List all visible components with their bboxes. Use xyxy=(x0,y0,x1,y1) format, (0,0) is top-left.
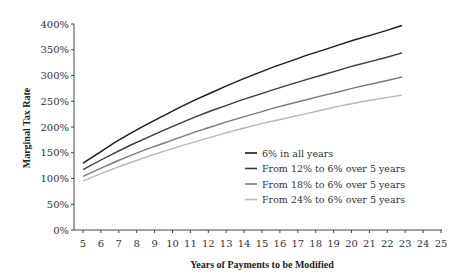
series-line-0 xyxy=(83,26,402,164)
x-tick-label: 10 xyxy=(166,238,179,249)
x-tick-label: 11 xyxy=(184,238,197,249)
x-tick-label: 14 xyxy=(238,238,251,249)
y-tick-label: 300% xyxy=(40,70,69,81)
x-tick-label: 18 xyxy=(309,238,322,249)
series-lines xyxy=(83,26,402,182)
x-tick-label: 22 xyxy=(381,238,394,249)
y-tick-label: 400% xyxy=(40,19,69,30)
x-tick-label: 5 xyxy=(80,238,86,249)
x-tick-label: 21 xyxy=(363,238,376,249)
y-tick-label: 150% xyxy=(40,147,69,158)
x-tick-label: 8 xyxy=(134,238,140,249)
y-tick-label: 100% xyxy=(40,173,69,184)
x-tick-label: 9 xyxy=(151,238,157,249)
x-tick-label: 25 xyxy=(435,238,448,249)
y-tick-label: 350% xyxy=(40,44,69,55)
legend-label: From 18% to 6% over 5 years xyxy=(262,179,405,190)
legend: 6% in all yearsFrom 12% to 6% over 5 yea… xyxy=(245,148,405,206)
y-tick-label: 250% xyxy=(40,96,69,107)
x-tick-label: 15 xyxy=(256,238,269,249)
x-tick-label: 17 xyxy=(291,238,304,249)
x-tick-label: 23 xyxy=(399,238,412,249)
x-tick-label: 6 xyxy=(98,238,104,249)
y-tick-label: 50% xyxy=(47,199,69,210)
x-tick-label: 19 xyxy=(327,238,340,249)
legend-label: From 24% to 6% over 5 years xyxy=(262,194,405,205)
x-tick-label: 16 xyxy=(274,238,287,249)
x-tick-label: 13 xyxy=(220,238,233,249)
x-axis: 5678910111213141516171819202122232425 xyxy=(74,230,447,249)
x-tick-label: 12 xyxy=(202,238,215,249)
series-line-1 xyxy=(83,53,402,170)
x-axis-title: Years of Payments to be Modified xyxy=(190,259,334,270)
line-chart: 0%50%100%150%200%250%300%350%400% 567891… xyxy=(0,0,456,280)
y-tick-label: 200% xyxy=(40,122,69,133)
legend-label: From 12% to 6% over 5 years xyxy=(262,163,405,174)
x-tick-label: 24 xyxy=(417,238,430,249)
x-tick-label: 7 xyxy=(116,238,122,249)
series-line-2 xyxy=(83,77,402,176)
legend-label: 6% in all years xyxy=(262,148,333,159)
x-tick-label: 20 xyxy=(345,238,358,249)
y-axis: 0%50%100%150%200%250%300%350%400% xyxy=(40,19,74,236)
y-tick-label: 0% xyxy=(53,225,69,236)
y-axis-title: Marginal Tax Rate xyxy=(21,87,32,168)
